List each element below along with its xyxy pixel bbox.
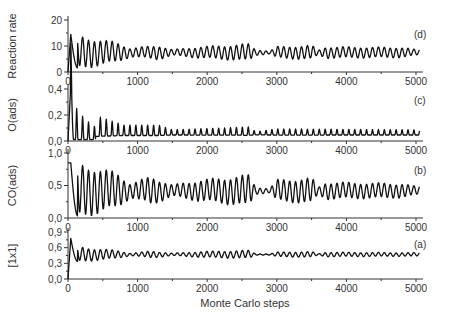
panel-d: 01020010002000300040005000Reaction rate(…	[6, 13, 428, 87]
x-tick-label: 4000	[335, 76, 358, 87]
panel-label: (b)	[414, 165, 426, 176]
x-tick-label: 3000	[266, 76, 289, 87]
x-tick-label: 1000	[126, 76, 149, 87]
y-tick-label: 20	[51, 15, 63, 26]
y-tick-label: 0,0	[48, 274, 62, 285]
y-tick-label: 0,0	[48, 213, 62, 224]
x-tick-label: 5000	[405, 283, 428, 294]
y-tick-label: 0,4	[48, 84, 62, 95]
y-axis-label: [1x1]	[6, 244, 18, 268]
y-tick-label: 0,9	[48, 227, 62, 238]
x-tick-label: 2000	[196, 222, 219, 233]
x-tick-label: 4000	[335, 145, 358, 156]
x-tick-label: 1000	[126, 222, 149, 233]
x-tick-label: 3000	[266, 283, 289, 294]
series-line	[68, 34, 420, 72]
y-tick-label: 10	[51, 41, 63, 52]
x-tick-label: 5000	[405, 222, 428, 233]
y-axis-label: Reaction rate	[6, 13, 18, 78]
x-tick-label: 2000	[196, 283, 219, 294]
y-tick-label: 1,0	[48, 148, 62, 159]
y-tick-label: 0,3	[48, 258, 62, 269]
x-tick-label: 2000	[196, 145, 219, 156]
x-tick-label: 3000	[266, 145, 289, 156]
panel-label: (a)	[414, 239, 426, 250]
x-axis-label: Monte Carlo steps	[200, 297, 290, 309]
y-axis-label: O(ads)	[6, 98, 18, 132]
x-tick-label: 1000	[126, 145, 149, 156]
x-tick-label: 5000	[405, 76, 428, 87]
y-tick-label: 0,2	[48, 110, 62, 121]
x-tick-label: 2000	[196, 76, 219, 87]
panel-b: 0,00,51,0010002000300040005000CO(ads)(b)	[6, 148, 428, 234]
series-line	[68, 238, 420, 279]
x-tick-label: 1000	[126, 283, 149, 294]
y-tick-label: 0	[56, 67, 62, 78]
y-tick-label: 0,6	[48, 242, 62, 253]
series-line	[68, 163, 420, 216]
panel-label: (d)	[414, 29, 426, 40]
panel-label: (c)	[414, 95, 426, 106]
x-tick-label: 5000	[405, 145, 428, 156]
x-tick-label: 0	[65, 283, 71, 294]
stacked-line-chart: 01020010002000300040005000Reaction rate(…	[0, 0, 453, 324]
y-tick-label: 0,0	[48, 136, 62, 147]
x-tick-label: 3000	[266, 222, 289, 233]
panel-a: 0,00,30,60,9010002000300040005000[1x1](a…	[6, 227, 428, 295]
x-tick-label: 4000	[335, 283, 358, 294]
y-axis-label: CO(ads)	[6, 165, 18, 207]
y-tick-label: 0,5	[48, 180, 62, 191]
x-tick-label: 4000	[335, 222, 358, 233]
